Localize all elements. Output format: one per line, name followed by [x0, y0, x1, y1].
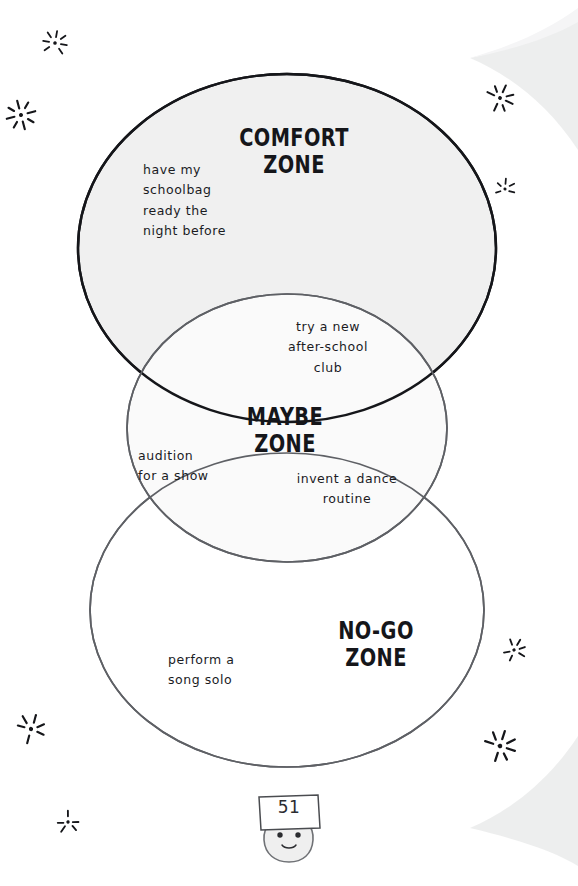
page-number-group: 51 — [243, 787, 335, 879]
page-curl-bottom-right — [470, 736, 578, 866]
venn-circle-maybe — [127, 294, 447, 562]
worksheet-page: COMFORT ZONE MAYBE ZONE NO-GO ZONE have … — [0, 0, 578, 886]
page-number: 51 — [269, 797, 309, 817]
venn-diagram — [0, 0, 578, 886]
